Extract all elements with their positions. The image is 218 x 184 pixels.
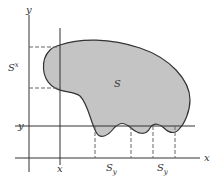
diagram-canvas: y x x y S Sx Sy Sy (0, 0, 218, 184)
section-x-label: Sx (8, 61, 19, 73)
y-axis-label: y (25, 4, 32, 15)
section-y-label-2: Sy (157, 162, 169, 176)
x-value-label: x (57, 163, 63, 174)
y-value-label: y (17, 120, 24, 131)
region-label: S (114, 78, 121, 89)
section-y-label-1: Sy (106, 162, 118, 176)
x-axis-label: x (204, 152, 210, 163)
